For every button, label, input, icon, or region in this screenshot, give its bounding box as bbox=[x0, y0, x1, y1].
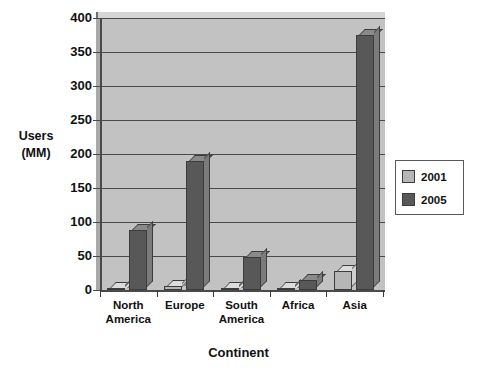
chart-legend: 20012005 bbox=[395, 160, 464, 215]
gridline bbox=[102, 188, 385, 189]
x-category-label: NorthAmerica bbox=[100, 299, 157, 326]
x-category-label-line: Asia bbox=[326, 299, 383, 313]
x-category-label: Africa bbox=[270, 299, 327, 313]
y-tick-label: 250 bbox=[54, 113, 92, 126]
y-tick-mark bbox=[93, 256, 100, 257]
x-tick-mark bbox=[270, 290, 271, 297]
x-category-label-line: America bbox=[100, 313, 157, 327]
gridline bbox=[102, 120, 385, 121]
y-tick-mark bbox=[93, 188, 100, 189]
bar-side-face bbox=[147, 221, 153, 287]
bar-side-face bbox=[261, 248, 267, 287]
bar-chart: Users (MM) 050100150200250300350400 Nort… bbox=[0, 0, 477, 371]
x-category-label-line: America bbox=[213, 313, 270, 327]
y-tick-mark bbox=[93, 52, 100, 53]
y-tick-label: 150 bbox=[54, 181, 92, 194]
bar-asia-2001[interactable] bbox=[334, 271, 352, 290]
x-tick-mark bbox=[383, 290, 384, 297]
gridline bbox=[102, 154, 385, 155]
bar-side-face bbox=[374, 26, 380, 287]
y-tick-label: 350 bbox=[54, 45, 92, 58]
gridline bbox=[102, 52, 385, 53]
y-tick-mark bbox=[93, 222, 100, 223]
bar-side-face bbox=[204, 152, 210, 287]
y-tick-mark bbox=[93, 120, 100, 121]
x-tick-mark bbox=[100, 290, 101, 297]
gridline bbox=[102, 222, 385, 223]
x-category-label-line: Africa bbox=[270, 299, 327, 313]
x-category-label-line: Europe bbox=[157, 299, 214, 313]
bar-asia-2005[interactable] bbox=[356, 35, 374, 290]
x-axis-ticks bbox=[100, 290, 383, 298]
legend-swatch-icon bbox=[402, 170, 415, 183]
x-tick-mark bbox=[326, 290, 327, 297]
y-tick-label: 400 bbox=[54, 11, 92, 24]
gridline bbox=[102, 86, 385, 87]
y-tick-mark bbox=[93, 154, 100, 155]
plot-area bbox=[100, 18, 385, 292]
y-tick-mark bbox=[93, 18, 100, 19]
bar-africa-2005[interactable] bbox=[299, 280, 317, 290]
x-tick-mark bbox=[157, 290, 158, 297]
x-category-label-line: South bbox=[213, 299, 270, 313]
x-tick-mark bbox=[213, 290, 214, 297]
y-tick-label: 100 bbox=[54, 215, 92, 228]
bar-south-america-2005[interactable] bbox=[243, 257, 261, 290]
x-category-label: SouthAmerica bbox=[213, 299, 270, 326]
bar-north-america-2005[interactable] bbox=[129, 230, 147, 290]
x-category-label-line: North bbox=[100, 299, 157, 313]
y-tick-label: 200 bbox=[54, 147, 92, 160]
y-tick-label: 50 bbox=[54, 249, 92, 262]
y-tick-mark bbox=[93, 86, 100, 87]
x-category-label: Europe bbox=[157, 299, 214, 313]
legend-label: 2001 bbox=[421, 170, 447, 184]
x-axis-category-labels: NorthAmericaEuropeSouthAmericaAfricaAsia bbox=[100, 299, 383, 333]
legend-swatch-icon bbox=[402, 193, 415, 206]
x-category-label: Asia bbox=[326, 299, 383, 313]
y-tick-mark bbox=[93, 290, 100, 291]
x-axis-title: Continent bbox=[0, 345, 477, 360]
bar-europe-2005[interactable] bbox=[186, 161, 204, 290]
gridline bbox=[102, 18, 385, 19]
y-axis: 050100150200250300350400 bbox=[52, 0, 92, 371]
y-tick-label: 300 bbox=[54, 79, 92, 92]
legend-label: 2005 bbox=[421, 193, 447, 207]
y-tick-label: 0 bbox=[54, 283, 92, 296]
